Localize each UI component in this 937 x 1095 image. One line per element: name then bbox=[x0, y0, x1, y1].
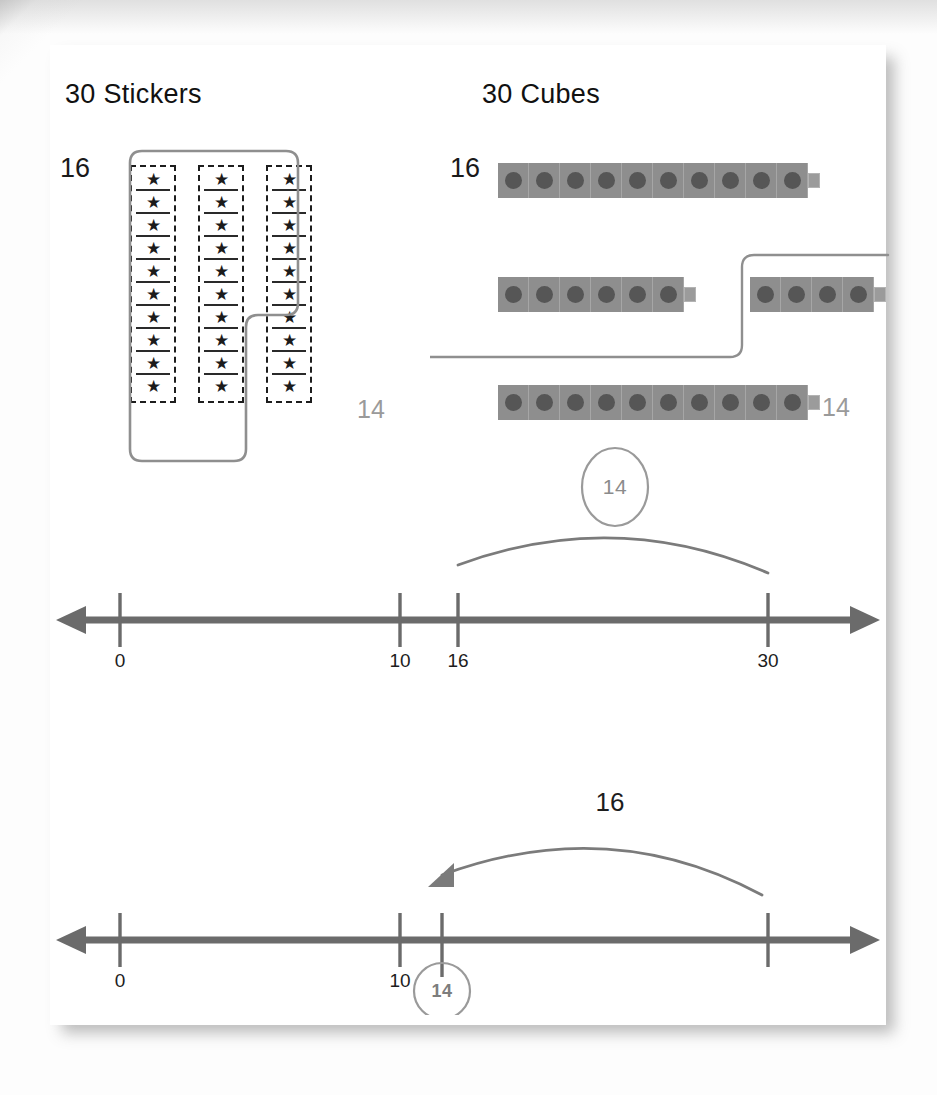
cube-unit bbox=[715, 163, 746, 198]
star-icon: ★ bbox=[146, 240, 161, 257]
cube-unit bbox=[812, 277, 843, 312]
cube-dot-icon bbox=[629, 394, 646, 411]
number-line-2-graphic bbox=[50, 765, 886, 1015]
cube-dot-icon bbox=[536, 172, 553, 189]
sticker-cell: ★ bbox=[200, 376, 242, 399]
sticker-cell: ★ bbox=[132, 376, 174, 399]
cube-unit bbox=[560, 277, 591, 312]
star-icon: ★ bbox=[282, 355, 297, 372]
number-line-1-jump-badge: 14 bbox=[603, 475, 627, 499]
cube-dot-icon bbox=[567, 286, 584, 303]
cube-unit bbox=[498, 277, 529, 312]
number-line-2-position-badge: 14 bbox=[431, 981, 452, 1002]
star-icon: ★ bbox=[146, 194, 161, 211]
cube-dot-icon bbox=[722, 172, 739, 189]
cube-unit bbox=[750, 277, 781, 312]
cube-rod-row2-left bbox=[498, 277, 696, 312]
star-icon: ★ bbox=[282, 286, 297, 303]
cube-rod-row2-right bbox=[750, 277, 886, 312]
sticker-cell: ★ bbox=[200, 169, 242, 192]
cube-unit bbox=[560, 385, 591, 420]
sticker-cell: ★ bbox=[132, 261, 174, 284]
stickers-heading: 30 Stickers bbox=[65, 79, 202, 110]
sticker-cell: ★ bbox=[132, 238, 174, 261]
cube-dot-icon bbox=[753, 394, 770, 411]
cube-unit bbox=[529, 163, 560, 198]
cube-dot-icon bbox=[536, 286, 553, 303]
cube-dot-icon bbox=[722, 394, 739, 411]
cube-unit bbox=[746, 385, 777, 420]
sticker-cell: ★ bbox=[132, 192, 174, 215]
cube-unit bbox=[529, 385, 560, 420]
cubes-group-count: 16 bbox=[450, 153, 480, 184]
sticker-strip-2: ★★★★★★★★★★ bbox=[198, 165, 244, 403]
number-line-2-tick-label-10: 10 bbox=[389, 970, 410, 992]
worksheet-card: 30 Stickers 30 Cubes 16 14 16 14 ★★★★★★★… bbox=[50, 45, 886, 1025]
sticker-cell: ★ bbox=[132, 169, 174, 192]
stickers-group-count: 16 bbox=[60, 153, 90, 184]
number-line-1-tick-label-30: 30 bbox=[757, 650, 778, 672]
cube-unit bbox=[777, 385, 808, 420]
star-icon: ★ bbox=[214, 355, 229, 372]
cube-dot-icon bbox=[505, 286, 522, 303]
cube-dot-icon bbox=[629, 172, 646, 189]
sticker-cell: ★ bbox=[200, 284, 242, 307]
cube-dot-icon bbox=[660, 394, 677, 411]
star-icon: ★ bbox=[282, 171, 297, 188]
sticker-cell: ★ bbox=[268, 238, 310, 261]
sticker-cell: ★ bbox=[268, 169, 310, 192]
cube-unit bbox=[715, 385, 746, 420]
star-icon: ★ bbox=[214, 217, 229, 234]
number-line-2-tick-label-0: 0 bbox=[115, 970, 126, 992]
star-icon: ★ bbox=[214, 309, 229, 326]
sticker-cell: ★ bbox=[268, 376, 310, 399]
sticker-cell: ★ bbox=[200, 353, 242, 376]
sticker-cell: ★ bbox=[268, 284, 310, 307]
cube-dot-icon bbox=[784, 394, 801, 411]
star-icon: ★ bbox=[282, 217, 297, 234]
cube-dot-icon bbox=[536, 394, 553, 411]
sticker-cell: ★ bbox=[200, 261, 242, 284]
cube-unit bbox=[781, 277, 812, 312]
star-icon: ★ bbox=[282, 309, 297, 326]
cube-dot-icon bbox=[757, 286, 774, 303]
cube-unit bbox=[591, 163, 622, 198]
cube-unit bbox=[498, 385, 529, 420]
star-icon: ★ bbox=[146, 309, 161, 326]
sticker-cell: ★ bbox=[268, 192, 310, 215]
cube-connector-nub bbox=[684, 287, 696, 302]
number-line-2: 16 14 0 10 bbox=[50, 765, 886, 1015]
cube-unit bbox=[653, 385, 684, 420]
cube-unit bbox=[653, 163, 684, 198]
sticker-cell: ★ bbox=[268, 261, 310, 284]
star-icon: ★ bbox=[214, 171, 229, 188]
cube-unit bbox=[560, 163, 591, 198]
star-icon: ★ bbox=[214, 240, 229, 257]
number-line-1-tick-label-10: 10 bbox=[389, 650, 410, 672]
sticker-cell: ★ bbox=[200, 307, 242, 330]
star-icon: ★ bbox=[282, 194, 297, 211]
number-line-1: 14 0 10 16 30 bbox=[50, 445, 886, 695]
cube-connector-nub bbox=[874, 287, 886, 302]
cube-dot-icon bbox=[660, 286, 677, 303]
star-icon: ★ bbox=[146, 286, 161, 303]
cube-rod-row1 bbox=[498, 163, 820, 198]
sticker-cell: ★ bbox=[132, 307, 174, 330]
cubes-heading: 30 Cubes bbox=[482, 79, 600, 110]
cube-unit bbox=[843, 277, 874, 312]
sticker-cell: ★ bbox=[132, 284, 174, 307]
cube-dot-icon bbox=[788, 286, 805, 303]
star-icon: ★ bbox=[282, 263, 297, 280]
star-icon: ★ bbox=[214, 378, 229, 395]
cube-unit bbox=[622, 277, 653, 312]
cube-unit bbox=[684, 385, 715, 420]
sticker-cell: ★ bbox=[200, 192, 242, 215]
sticker-cell: ★ bbox=[132, 215, 174, 238]
cube-dot-icon bbox=[753, 172, 770, 189]
cube-unit bbox=[591, 385, 622, 420]
cube-connector-nub bbox=[808, 173, 820, 188]
star-icon: ★ bbox=[146, 378, 161, 395]
stickers-remainder-count: 14 bbox=[357, 395, 385, 424]
sticker-cell: ★ bbox=[268, 215, 310, 238]
star-icon: ★ bbox=[146, 217, 161, 234]
